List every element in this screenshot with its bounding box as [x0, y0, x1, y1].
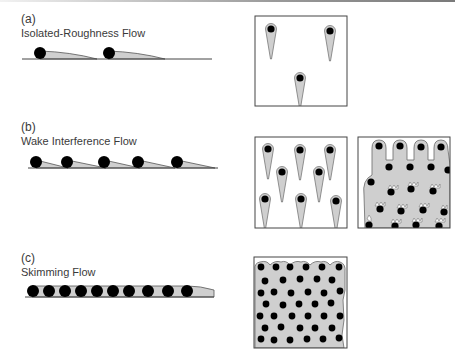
panel-a-plan-view: [255, 16, 347, 108]
panel-b-side-view: [28, 156, 218, 168]
panel-a-side-view: [22, 47, 212, 59]
panel-c-plan-view: [254, 257, 347, 348]
roughness-element: [34, 47, 46, 59]
panel-b-plan-view-dense: [358, 137, 452, 230]
panel-b-plan-view-sparse: [255, 137, 347, 231]
roughness-element: [103, 47, 115, 59]
panel-c-side-view: [25, 285, 214, 297]
flow-regimes-diagram: [0, 0, 469, 364]
